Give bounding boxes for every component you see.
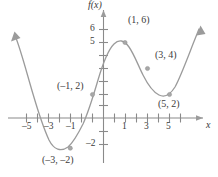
curve-left-arrowhead: [11, 32, 21, 42]
x-tick-label-3: 3: [144, 122, 149, 132]
marked-point: [145, 66, 149, 70]
x-axis-arrowhead: [196, 115, 203, 121]
x-tick-label-neg3: –3: [44, 122, 54, 132]
point-label-1-6: (1, 6): [128, 15, 150, 25]
x-tick-label-neg1: –1: [66, 122, 76, 132]
y-tick-label-5: 5: [90, 37, 95, 47]
y-tick-label-6: 6: [90, 24, 95, 34]
y-axis-arrowhead: [101, 10, 107, 17]
y-tick-label-neg2: –2: [86, 139, 96, 149]
marked-point: [167, 92, 171, 96]
marked-point: [90, 92, 94, 96]
point-label-neg3-neg2: (–3, –2): [42, 155, 74, 165]
y-axis-label: f(x): [88, 0, 102, 10]
graph-figure: f(x) x –5 –3 –1 1 3 5 6 5 –2 (1, 6) (3, …: [0, 0, 218, 177]
point-label-neg1-2: (–1, 2): [57, 81, 84, 91]
x-tick-label-neg5: –5: [22, 122, 32, 132]
x-tick-label-5: 5: [166, 122, 171, 132]
x-tick-label-1: 1: [122, 122, 127, 132]
x-axis-label: x: [206, 120, 210, 130]
marked-point: [123, 40, 127, 44]
marked-point: [68, 146, 72, 150]
coordinate-plane: [0, 0, 218, 177]
point-label-3-4: (3, 4): [155, 50, 177, 60]
point-label-5-2: (5, 2): [158, 99, 180, 109]
